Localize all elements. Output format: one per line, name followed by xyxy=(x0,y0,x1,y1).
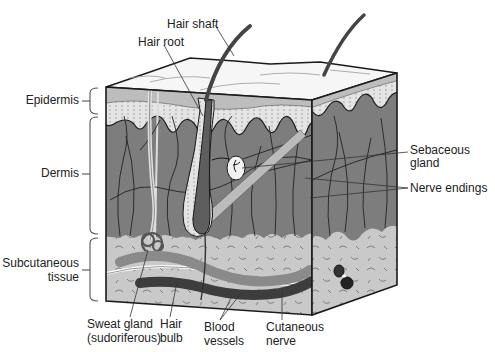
label-epidermis: Epidermis xyxy=(0,94,79,107)
label-dermis: Dermis xyxy=(0,167,79,180)
label-hair-shaft: Hair shaft xyxy=(167,18,218,31)
label-blood-vessels: Blood xyxy=(204,321,235,334)
label-sebaceous-gland-line2: gland xyxy=(410,157,439,170)
label-hair-bulb-line2: bulb xyxy=(160,332,183,345)
layer-brackets xyxy=(82,88,98,301)
label-blood-vessels-line2: vessels xyxy=(204,335,244,348)
front-face xyxy=(100,80,320,320)
label-sweat-gland: Sweat gland xyxy=(87,318,153,331)
label-hair-bulb: Hair xyxy=(160,318,182,331)
label-subcutaneous-line2: tissue xyxy=(0,271,79,284)
label-cutaneous-nerve: Cutaneous xyxy=(266,321,324,334)
label-subcutaneous: Subcutaneous xyxy=(0,257,79,270)
label-sweat-gland-line2: (sudoriferous) xyxy=(87,332,161,345)
label-hair-root: Hair root xyxy=(138,36,184,49)
label-cutaneous-nerve-line2: nerve xyxy=(266,335,296,348)
label-nerve-endings: Nerve endings xyxy=(410,182,487,195)
